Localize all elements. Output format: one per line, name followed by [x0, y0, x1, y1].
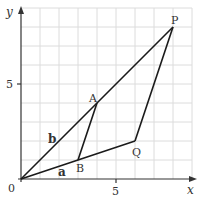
point-A-label: A [88, 92, 98, 105]
y-axis-arrow-icon [18, 6, 24, 14]
point-P-label: P [171, 14, 179, 27]
x-axis-arrow-icon [189, 176, 197, 182]
vector-diagram: y x 0 5 5 A B P Q b a [0, 0, 203, 202]
vector-a-label: a [58, 165, 66, 179]
point-Q-label: Q [132, 146, 141, 159]
x-axis-label: x [187, 183, 194, 197]
origin-label: 0 [8, 182, 15, 195]
y-tick-label: 5 [6, 78, 13, 91]
vector-b-label: b [48, 132, 56, 146]
x-tick-label: 5 [112, 185, 119, 198]
point-B-label: B [76, 162, 84, 175]
y-axis-label: y [5, 5, 13, 19]
diagram-svg: y x 0 5 5 A B P Q b a [0, 0, 203, 202]
